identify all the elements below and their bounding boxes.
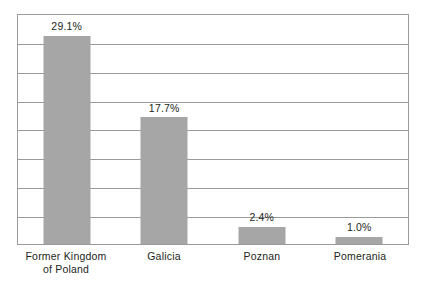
bar[interactable] [238,227,285,244]
x-axis-labels: Former Kingdom of Poland Galicia Poznan … [17,250,409,290]
x-axis-label-galicia: Galicia [115,250,213,263]
bar-slot: 17.7% [116,15,214,244]
bar[interactable] [43,36,90,244]
bar-value-label: 29.1% [51,20,82,32]
bar-value-label: 17.7% [149,102,180,114]
bar-value-label: 2.4% [249,211,274,223]
bars-layer: 29.1% 17.7% 2.4% 1.0% [18,15,408,244]
x-axis-label-poznan: Poznan [213,250,311,263]
bar[interactable] [141,117,188,244]
bar-chart: 29.1% 17.7% 2.4% 1.0% Former Kingdom of … [0,0,425,298]
plot-area: 29.1% 17.7% 2.4% 1.0% [17,14,409,245]
bar-slot: 29.1% [18,15,116,244]
bar-slot: 1.0% [311,15,409,244]
bar[interactable] [336,237,383,244]
x-axis-label-pomerania: Pomerania [311,250,409,263]
x-axis-label-former-kingdom-of-poland: Former Kingdom of Poland [17,250,115,276]
bar-value-label: 1.0% [347,221,372,233]
bar-slot: 2.4% [213,15,311,244]
